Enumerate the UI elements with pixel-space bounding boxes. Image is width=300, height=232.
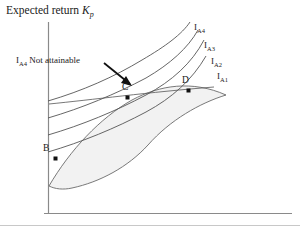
not-attainable-curve-index: 4 [24,60,27,67]
curve-label-3-sub-index: 3 [212,45,215,52]
figure-canvas: Expected return Kp IA4 Not attainable IA… [0,0,300,232]
point-marker-d [187,89,191,93]
point-marker-c [126,96,130,100]
curve-label-2-sub-index: 2 [219,61,222,68]
axis-title-symbol: K [82,4,90,16]
not-attainable-text: Not attainable [29,55,80,65]
point-label-c: C [122,83,128,93]
not-attainable-label: IA4 Not attainable [16,56,80,67]
point-label-b: B [43,144,49,154]
axis-title-text: Expected return [6,4,79,16]
curve-label-4-sub-index: 4 [202,27,205,34]
axis-title-subscript: p [90,10,94,19]
curve-label-2: IA2 [211,57,222,68]
point-marker-b [54,157,58,161]
curve-label-1-sub-index: 1 [225,76,228,83]
diagram-svg [0,0,300,232]
curve-label-3: IA3 [204,41,215,52]
curve-label-4: IA4 [194,23,205,34]
curve-label-1: IA1 [217,72,228,83]
y-axis-title: Expected return Kp [6,5,94,19]
point-label-d: D [182,76,189,86]
